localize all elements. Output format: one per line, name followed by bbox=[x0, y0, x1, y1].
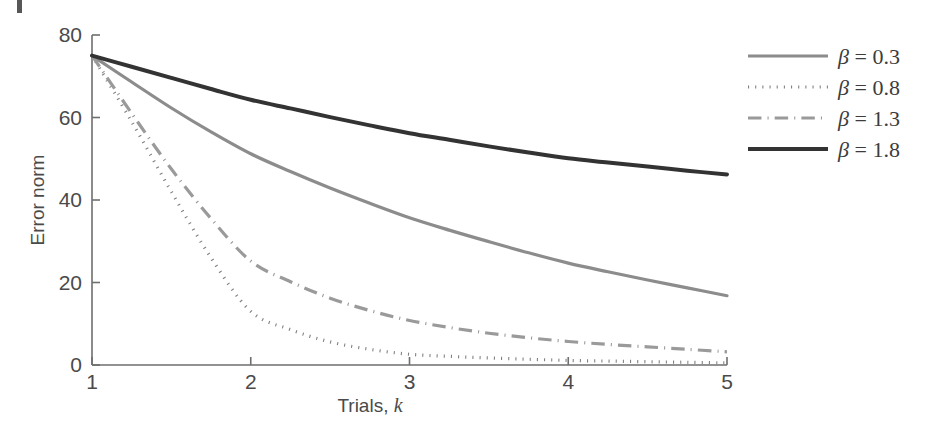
y-tick-label: 0 bbox=[70, 353, 82, 376]
x-axis-title: Trials, k bbox=[337, 394, 403, 416]
x-tick-label: 5 bbox=[721, 370, 733, 393]
chart-figure: 020406080 12345 Error norm Trials, k β =… bbox=[0, 0, 928, 442]
svg-text:Trials, k: Trials, k bbox=[337, 394, 403, 416]
legend-label-0: β = 0.3 bbox=[837, 44, 900, 69]
legend-beta-symbol-3: β bbox=[837, 137, 849, 162]
y-tick-label: 40 bbox=[59, 188, 82, 211]
legend: β = 0.3β = 0.8β = 1.3β = 1.8 bbox=[748, 44, 900, 162]
error-norm-line-chart: 020406080 12345 Error norm Trials, k β =… bbox=[0, 0, 928, 442]
x-axis-title-main: Trials, bbox=[337, 395, 393, 416]
data-series-group bbox=[92, 56, 727, 363]
data-line-0 bbox=[92, 56, 727, 296]
legend-label-3: β = 1.8 bbox=[837, 137, 900, 162]
x-axis-tick-labels: 12345 bbox=[86, 370, 733, 393]
y-tick-label: 60 bbox=[59, 106, 82, 129]
page-edge-artifact bbox=[17, 0, 22, 13]
legend-value-3: = 1.8 bbox=[849, 137, 900, 162]
legend-value-0: = 0.3 bbox=[849, 44, 900, 69]
legend-beta-symbol-1: β bbox=[837, 75, 849, 100]
legend-value-1: = 0.8 bbox=[849, 75, 900, 100]
data-line-2 bbox=[92, 56, 727, 352]
y-tick-label: 20 bbox=[59, 271, 82, 294]
y-tick-label: 80 bbox=[59, 23, 82, 46]
x-tick-label: 3 bbox=[404, 370, 416, 393]
x-axis-ticks bbox=[92, 357, 727, 365]
x-tick-label: 1 bbox=[86, 370, 98, 393]
x-tick-label: 4 bbox=[562, 370, 574, 393]
y-axis-title: Error norm bbox=[27, 155, 48, 246]
x-axis-title-italic: k bbox=[394, 394, 404, 416]
x-tick-label: 2 bbox=[245, 370, 257, 393]
y-axis-tick-labels: 020406080 bbox=[59, 23, 82, 376]
legend-label-1: β = 0.8 bbox=[837, 75, 900, 100]
data-line-3 bbox=[92, 56, 727, 175]
data-line-1 bbox=[92, 56, 727, 363]
legend-beta-symbol-0: β bbox=[837, 44, 849, 69]
legend-value-2: = 1.3 bbox=[849, 106, 900, 131]
legend-label-2: β = 1.3 bbox=[837, 106, 900, 131]
axis-lines bbox=[92, 35, 727, 365]
legend-beta-symbol-2: β bbox=[837, 106, 849, 131]
y-axis-ticks bbox=[92, 35, 100, 365]
